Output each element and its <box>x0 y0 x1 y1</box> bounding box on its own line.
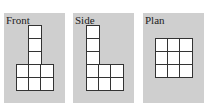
grid-cell <box>86 38 100 52</box>
grid-cell <box>28 51 42 65</box>
grid-cell <box>179 51 193 65</box>
view-panel-plan: Plan <box>143 13 204 103</box>
grid-cell <box>40 77 54 91</box>
view-panel-side: Side <box>73 13 134 103</box>
view-label: Plan <box>145 14 165 26</box>
grid-cell <box>28 38 42 52</box>
grid-cell <box>179 38 193 52</box>
grid-cell <box>86 25 100 39</box>
grid-cell <box>179 64 193 78</box>
grid-cell <box>40 64 54 78</box>
grid-cell <box>28 25 42 39</box>
view-label: Front <box>6 14 30 26</box>
grid-cell <box>110 77 124 91</box>
grid-cell <box>86 51 100 65</box>
grid-cell <box>110 64 124 78</box>
view-panel-front: Front <box>4 13 65 103</box>
